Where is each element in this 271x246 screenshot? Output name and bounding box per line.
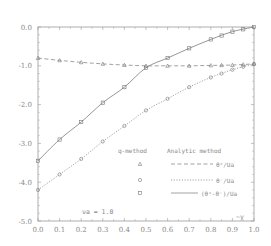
x-tick-label: 0.5 [140, 226, 151, 234]
y-tick-label: -5.0 [19, 218, 33, 226]
legend-entry-0-label: θ⁺/Ua [216, 161, 234, 168]
curve-dashed [38, 58, 254, 66]
x-tick-label: 1.0 [248, 226, 259, 234]
circle-marker [188, 86, 191, 89]
triangle-marker [138, 162, 142, 165]
curve-solid [38, 27, 254, 161]
square-marker [138, 191, 141, 194]
circle-marker [58, 173, 61, 176]
curve-dotted [38, 64, 254, 190]
x-tick-label: 0.2 [76, 226, 87, 234]
y-tick-label: -2.0 [19, 101, 33, 109]
legend: q-method Analytic method θ⁺/Ua θ⁻/Ua (θ⁺… [118, 147, 238, 197]
y-tick-label: -3.0 [19, 140, 33, 148]
legend-entry-2-label: (θ⁺-θ⁻)/Ua [201, 190, 238, 197]
x-tick-label: 0.6 [162, 226, 174, 234]
legend-header-right: Analytic method [167, 147, 222, 155]
circle-marker [144, 109, 147, 112]
circle-marker [220, 72, 223, 75]
chart: 0.0-1.0-2.0-3.0-4.0-5.0 0.00.10.20.30.40… [0, 0, 271, 246]
y-tick-label: -4.0 [19, 179, 33, 187]
circle-marker [80, 157, 83, 160]
legend-header-left: q-method [118, 147, 147, 155]
circle-marker [123, 124, 126, 127]
x-axis-ticks: 0.00.10.20.30.40.50.60.70.80.91.0 [32, 27, 259, 234]
circle-marker [166, 97, 169, 100]
legend-entry-1-label: θ⁻/Ua [216, 177, 234, 184]
y-tick-label: -1.0 [19, 62, 33, 70]
circle-marker [138, 178, 141, 181]
x-tick-label: 0.8 [205, 226, 216, 234]
x-tick-label: 0.1 [54, 226, 65, 234]
parameter-annotation: νa = 1.0 [82, 208, 113, 216]
x-axis-label: ~y [236, 213, 244, 221]
x-tick-label: 0.9 [227, 226, 238, 234]
y-tick-label: 0.0 [21, 24, 32, 32]
x-tick-label: 0.0 [32, 226, 43, 234]
circle-marker [209, 76, 212, 79]
x-tick-label: 0.7 [184, 226, 195, 234]
x-tick-label: 0.3 [97, 226, 108, 234]
x-tick-label: 0.4 [119, 226, 131, 234]
circle-marker [101, 140, 104, 143]
